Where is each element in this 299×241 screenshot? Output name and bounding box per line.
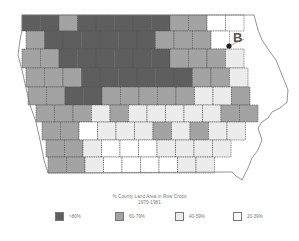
county-cell [63, 68, 82, 87]
county-cell [67, 157, 86, 173]
county-cell [41, 15, 60, 31]
county-cell [122, 157, 141, 173]
map-subtitle-years: 1979-1981 [0, 200, 299, 205]
county-cell [100, 68, 119, 87]
county-cell [166, 105, 185, 122]
legend-item-20-39: 20-39% [233, 212, 263, 221]
county-cell [48, 157, 67, 173]
county-cell [26, 31, 45, 49]
county-cell [232, 87, 251, 105]
county-cell [230, 68, 249, 87]
map-title: % County Land Area in Row Crops [0, 194, 299, 199]
county-cell [79, 122, 98, 140]
county-cell [102, 140, 121, 157]
county-cell [104, 157, 123, 173]
county-cell [22, 15, 41, 31]
county-cell [203, 105, 222, 122]
legend-label: 40-59% [189, 214, 205, 219]
county-cell [85, 157, 104, 173]
county-cell [120, 140, 139, 157]
county-cell [170, 15, 189, 31]
county-cell [28, 87, 47, 105]
county-cell [133, 15, 152, 31]
county-cell [193, 31, 212, 49]
county-cell [133, 49, 152, 68]
county-cell [45, 31, 64, 49]
county-cell [65, 140, 84, 157]
county-cell [226, 15, 245, 31]
county-cell [227, 122, 246, 140]
county-cell [240, 105, 259, 122]
marker-label-b: B [233, 30, 242, 45]
county-grid [22, 15, 258, 173]
county-cell [196, 157, 215, 173]
county-cell [63, 31, 82, 49]
county-cell [82, 68, 101, 87]
county-cell [135, 122, 154, 140]
county-cell [129, 105, 148, 122]
legend-label: 60-79% [129, 214, 145, 219]
county-cell [221, 105, 240, 122]
county-cell [211, 68, 230, 87]
county-cell [46, 140, 65, 157]
county-cell [115, 49, 134, 68]
county-cell [207, 15, 226, 31]
county-cell [226, 49, 245, 68]
county-cell [157, 140, 176, 157]
legend-label: 20-39% [247, 214, 263, 219]
county-cell [98, 122, 117, 140]
county-cell [156, 31, 175, 49]
county-cell [73, 105, 92, 122]
county-cell [59, 15, 78, 31]
county-cell [170, 49, 189, 68]
location-marker-dot [226, 43, 231, 48]
county-cell [84, 87, 103, 105]
county-cell [137, 68, 156, 87]
legend-item-60-79: 60-79% [115, 212, 145, 221]
county-cell [96, 15, 115, 31]
legend-label: >80% [69, 214, 81, 219]
county-cell [119, 68, 138, 87]
county-cell [115, 15, 134, 31]
county-cell [41, 49, 60, 68]
county-cell [176, 140, 195, 157]
county-cell [213, 140, 232, 157]
county-cell [102, 87, 121, 105]
county-cell [119, 31, 138, 49]
county-cell [78, 15, 97, 31]
county-cell [172, 122, 191, 140]
legend-item-gt80: >80% [55, 212, 81, 221]
county-cell [189, 15, 208, 31]
county-cell [82, 31, 101, 49]
county-cell [55, 105, 74, 122]
legend-swatch-gt80 [55, 212, 64, 221]
county-cell [139, 87, 158, 105]
county-cell [61, 122, 80, 140]
county-cell [42, 122, 61, 140]
county-cell [184, 105, 203, 122]
county-cell [139, 140, 158, 157]
county-cell [207, 49, 226, 68]
county-cell [59, 49, 78, 68]
county-cell [83, 140, 102, 157]
county-cell [116, 122, 135, 140]
county-cell [193, 68, 212, 87]
county-cell [92, 105, 111, 122]
county-cell [213, 87, 232, 105]
county-cell [194, 140, 213, 157]
county-cell [178, 157, 197, 173]
county-cell [209, 122, 228, 140]
county-cell [190, 122, 209, 140]
county-cell [158, 87, 177, 105]
county-cell [189, 49, 208, 68]
county-cell [65, 87, 84, 105]
iowa-county-map [0, 0, 299, 190]
county-cell [96, 49, 115, 68]
county-cell [45, 68, 64, 87]
county-cell [174, 68, 193, 87]
legend-swatch-60-79 [115, 212, 124, 221]
legend-swatch-40-59 [175, 212, 184, 221]
legend-item-40-59: 40-59% [175, 212, 205, 221]
county-cell [174, 31, 193, 49]
county-cell [153, 122, 172, 140]
